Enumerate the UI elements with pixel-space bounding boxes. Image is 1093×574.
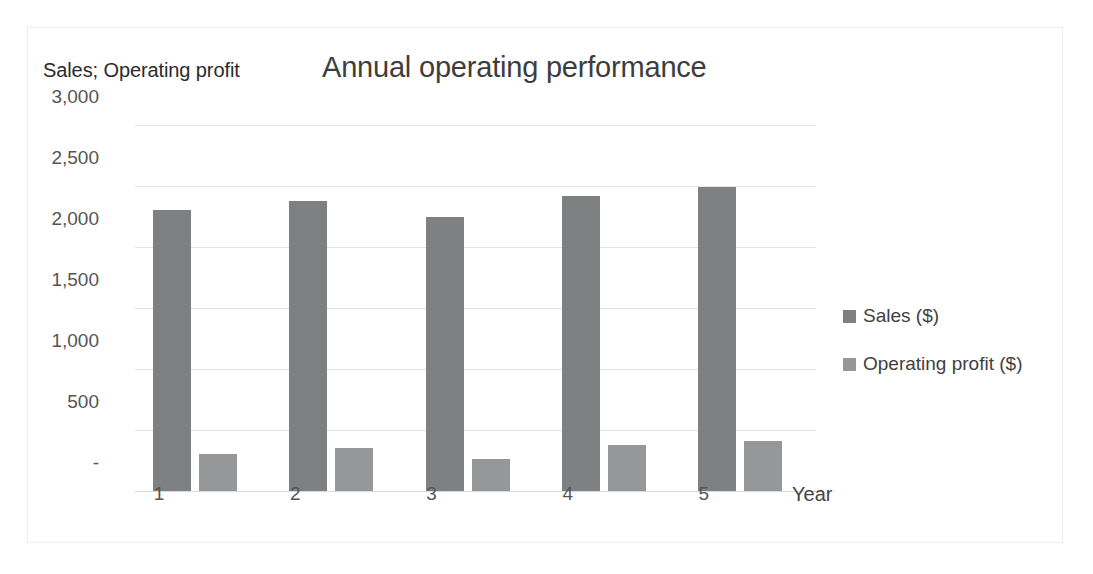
- chart-legend: Sales ($)Operating profit ($): [843, 305, 1053, 401]
- x-axis-tick-label: 3: [426, 483, 437, 505]
- x-axis-title: Year: [792, 483, 832, 506]
- bar: [562, 196, 600, 491]
- legend-label: Sales ($): [863, 305, 939, 327]
- bar: [426, 217, 464, 492]
- x-axis-tick-label: 1: [154, 483, 165, 505]
- legend-label: Operating profit ($): [863, 353, 1022, 375]
- x-axis-tick-label: 4: [562, 483, 573, 505]
- y-axis-title: Sales; Operating profit: [43, 59, 240, 82]
- bar: [698, 187, 736, 491]
- y-axis-tick-label: 1,000: [51, 330, 99, 352]
- plot-area: [135, 125, 816, 491]
- gridline: [135, 125, 816, 126]
- legend-swatch-icon: [843, 310, 856, 323]
- y-axis-tick-labels: 3,0002,5002,0001,5001,000500-: [27, 97, 99, 463]
- legend-item[interactable]: Sales ($): [843, 305, 1053, 327]
- legend-swatch-icon: [843, 358, 856, 371]
- y-axis-tick-label: 1,500: [51, 269, 99, 291]
- y-axis-tick-label: 2,000: [51, 208, 99, 230]
- x-axis-tick-label: 2: [290, 483, 301, 505]
- bar: [289, 201, 327, 491]
- x-axis-tick-label: 5: [699, 483, 710, 505]
- x-axis-tick-labels: 12345: [107, 463, 788, 507]
- y-axis-tick-label: -: [93, 452, 99, 474]
- y-axis-tick-label: 3,000: [51, 86, 99, 108]
- y-axis-tick-label: 500: [67, 391, 99, 413]
- bar: [153, 210, 191, 491]
- legend-item[interactable]: Operating profit ($): [843, 353, 1053, 375]
- chart-title: Annual operating performance: [322, 51, 707, 84]
- y-axis-tick-label: 2,500: [51, 147, 99, 169]
